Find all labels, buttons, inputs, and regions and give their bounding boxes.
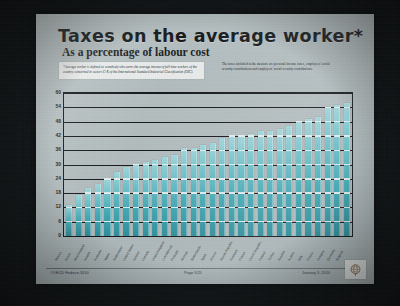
bar [200,145,206,236]
bar-gridline-mark [296,121,302,122]
bar-gridline-mark [286,150,292,151]
bar-gridline-mark [229,178,235,179]
footer-date: January 3, 2010 [302,270,330,275]
photographed-slide-image: Taxes on the average worker* As a percen… [0,0,400,306]
bar-gridline-mark [334,178,340,179]
bar-gridline-mark [258,207,264,208]
bar-gridline-mark [152,221,158,222]
bar-gridline-mark [334,150,340,151]
y-axis-tick: 42 [55,132,61,138]
bar-gridline-mark [171,221,177,222]
bar-gridline-mark [171,164,177,165]
bar-gridline-mark [296,178,302,179]
bar-gridline-mark [267,207,273,208]
bar-gridline-mark [344,192,350,193]
bar-gridline-mark [219,178,225,179]
bar-gridline-mark [267,221,273,222]
bar-gridline-mark [162,192,168,193]
bar-gridline-mark [123,207,129,208]
page-subtitle: As a percentage of labour cost [62,46,209,58]
bar-gridline-mark [238,164,244,165]
bar-gridline-mark [277,178,283,179]
y-axis-tick: 54 [55,103,61,109]
bar-gridline-mark [258,192,264,193]
bar [76,195,82,236]
bar [305,119,311,236]
bar-gridline-mark [277,207,283,208]
bar-gridline-mark [267,192,273,193]
bar-gridline-mark [315,207,321,208]
bar-gridline-mark [305,207,311,208]
bar-gridline-mark [229,150,235,151]
bar-gridline-mark [200,164,206,165]
bar [286,126,292,236]
bar-gridline-mark [334,135,340,136]
bar-gridline-mark [152,178,158,179]
bar-gridline-mark [296,135,302,136]
bar-gridline-mark [325,164,331,165]
bar-gridline-mark [191,207,197,208]
bar-gridline-mark [95,221,101,222]
bar-gridline-mark [229,221,235,222]
bar-gridline-mark [229,135,235,136]
footer-copyright: ©OECD Fedisco 2010 [50,270,89,275]
bar-gridline-mark [296,207,302,208]
bar-gridline-mark [104,221,110,222]
y-axis-tick: 24 [55,175,61,181]
bar-gridline-mark [210,192,216,193]
bar-gridline-mark [315,192,321,193]
bar-gridline-mark [162,178,168,179]
bar-gridline-mark [143,178,149,179]
y-axis-tick: 18 [55,189,61,195]
bar-gridline-mark [248,178,254,179]
bar-gridline-mark [191,221,197,222]
bar-gridline-mark [334,221,340,222]
bar-gridline-mark [325,107,331,108]
bar-gridline-mark [133,178,139,179]
bar-gridline-mark [286,164,292,165]
bar-gridline-mark [210,150,216,151]
bar-gridline-mark [143,192,149,193]
bar-gridline-mark [191,150,197,151]
globe-logo-icon [345,260,366,279]
bar-gridline-mark [238,192,244,193]
bar-gridline-mark [133,207,139,208]
footer-page-number: Page 5/25 [184,270,202,275]
bar-gridline-mark [315,221,321,222]
bar-gridline-mark [286,207,292,208]
bar-gridline-mark [344,121,350,122]
bar-gridline-mark [76,207,82,208]
bar-gridline-mark [200,221,206,222]
bar-gridline-mark [286,178,292,179]
bar-gridline-mark [85,207,91,208]
bar-gridline-mark [315,178,321,179]
bar-gridline-mark [200,192,206,193]
bar-gridline-mark [248,164,254,165]
bar [143,162,149,236]
bar-gridline-mark [76,221,82,222]
bar [229,136,235,236]
bar-gridline-mark [305,121,311,122]
bar-gridline-mark [315,121,321,122]
bar-gridline-mark [210,164,216,165]
y-axis-tick: 48 [55,118,61,124]
bar-gridline-mark [143,221,149,222]
bar-gridline-mark [325,150,331,151]
bar-gridline-mark [210,207,216,208]
bar-gridline-mark [286,221,292,222]
bar-gridline-mark [66,207,72,208]
bar-gridline-mark [277,221,283,222]
y-axis-tick: 30 [55,161,61,167]
bar-gridline-mark [219,207,225,208]
bar [325,107,331,236]
bar-gridline-mark [238,135,244,136]
bar-gridline-mark [296,150,302,151]
bar-gridline-mark [171,178,177,179]
bar-gridline-mark [334,192,340,193]
bar-gridline-mark [344,135,350,136]
bar [114,172,120,236]
bar-gridline-mark [229,192,235,193]
bar [238,136,244,236]
bar-gridline-mark [344,164,350,165]
bar [104,179,110,236]
